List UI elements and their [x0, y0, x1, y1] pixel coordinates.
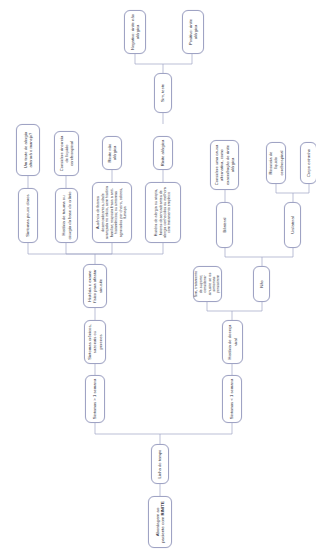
node-sintomas-menor-label: Sintomas < 1 semana — [229, 378, 234, 420]
node-corpo-estranho[interactable]: Corpo estranho — [300, 142, 316, 184]
node-rinite-alergica-label: Rinite alérgica — [160, 139, 165, 167]
node-historia-doenca-viral-label: História de doença viral — [227, 323, 237, 361]
node-historia-trauma-cirurgia[interactable]: História de trauma ou cirurgia da base d… — [55, 188, 78, 243]
node-historia-exame-label: História e exame físico para afastar sin… — [87, 267, 103, 305]
node-root-label: Abordagem ao paciente com RINITE — [155, 499, 166, 545]
node-ausencia-fatores-label: Ausência de fatores desencadeantes, idad… — [96, 185, 127, 240]
node-sintomas-cronicos-label: Sintomas crônicos, sazonais ou perenes — [87, 323, 103, 361]
node-sintomas-maior-1-semana[interactable]: Sintomas > 1 semana — [85, 375, 105, 423]
node-bilateral-label: Bilateral — [222, 205, 227, 245]
node-negativo-rinite-nao-alergica[interactable]: Negativo: rinite não alérgica — [124, 10, 146, 54]
node-sintomas-menor-1-semana[interactable]: Sintomas < 1 semana — [222, 375, 242, 423]
node-considere-rinorreia-label: Considere rinorreia de líquido cerebrosp… — [59, 134, 75, 173]
node-timeline[interactable]: Linha do tempo — [151, 444, 169, 484]
node-historia-trauma-label: História de trauma ou cirurgia da base d… — [61, 191, 71, 240]
node-sim-teste-label: Sim, teste — [160, 76, 165, 110]
node-rinorreia-lcr-label: Rinorreia de líquido cerebrospinal — [268, 145, 284, 181]
node-sim-tratamento-suporte[interactable]: Sim, tratamento de suporte; considerar s… — [193, 266, 222, 302]
node-considere-rinorreia-lcr[interactable]: Considere rinorreia de líquido cerebrosp… — [54, 131, 79, 176]
node-historia-doenca-viral[interactable]: História de doença viral — [222, 320, 243, 364]
node-teste-alergia-altera-manejo[interactable]: Um teste de alergia alterará o manejo? — [16, 124, 40, 176]
node-sim-teste[interactable]: Sim, teste — [154, 73, 172, 113]
node-rinite-alergica[interactable]: Rinite alérgica — [153, 136, 173, 170]
node-considere-causa-alternativa[interactable]: Considere uma causa alternativa, como ex… — [210, 140, 239, 190]
node-unilateral[interactable]: Unilateral — [284, 202, 301, 248]
node-positivo-rinite-alergica[interactable]: Positivo: rinite alérgica — [182, 10, 204, 54]
node-nao[interactable]: Não — [253, 266, 270, 302]
node-nao-label: Não — [259, 269, 264, 299]
node-negativo-label: Negativo: rinite não alérgica — [130, 13, 140, 51]
node-rinorreia-liquido-cerebrospinal[interactable]: Rinorreia de líquido cerebrospinal — [266, 142, 286, 184]
node-ausencia-fatores-desencadeantes[interactable]: Ausência de fatores desencadeantes, idad… — [92, 182, 132, 243]
flowchart-canvas: Abordagem ao paciente com RINITE Linha d… — [0, 0, 316, 554]
node-considere-causa-label: Considere uma causa alternativa, como ex… — [214, 143, 235, 187]
node-root[interactable]: Abordagem ao paciente com RINITE — [148, 496, 172, 548]
node-corpo-estranho-label: Corpo estranho — [306, 145, 311, 181]
node-sintomas-pouco-claros[interactable]: Sintomas pouco claros — [18, 188, 38, 243]
node-historia-exame-fisico[interactable]: História e exame físico para afastar sin… — [83, 264, 107, 308]
node-timeline-label: Linha do tempo — [157, 447, 162, 481]
node-rinite-nao-alergica[interactable]: Rinite não alérgica — [102, 136, 122, 170]
node-historia-alergia-label: História de alergia ou atopia, fatores d… — [154, 185, 172, 240]
node-historia-alergia-atopia[interactable]: História de alergia ou atopia, fatores d… — [145, 182, 181, 243]
node-unilateral-label: Unilateral — [290, 205, 295, 245]
node-teste-alergia-label: Um teste de alergia alterará o manejo? — [23, 127, 33, 173]
node-sim-tratamento-label: Sim, tratamento de suporte; considerar s… — [194, 269, 221, 299]
node-root-emphasis: RINITE — [160, 501, 165, 515]
node-positivo-label: Positivo: rinite alérgica — [188, 13, 198, 51]
node-bilateral[interactable]: Bilateral — [216, 202, 233, 248]
node-rinite-nao-alergica-label: Rinite não alérgica — [107, 139, 117, 167]
node-sintomas-cronicos[interactable]: Sintomas crônicos, sazonais ou perenes — [84, 320, 106, 364]
node-sintomas-maior-label: Sintomas > 1 semana — [92, 378, 97, 420]
node-sintomas-pouco-claros-label: Sintomas pouco claros — [25, 191, 30, 240]
rotated-diagram-wrapper: Abordagem ao paciente com RINITE Linha d… — [0, 0, 316, 554]
